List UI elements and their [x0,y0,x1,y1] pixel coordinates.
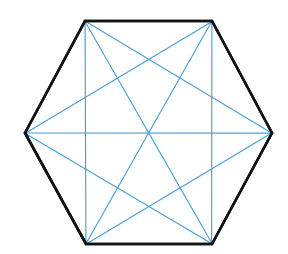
hexagon-side-ef [25,133,86,244]
diagonal-ac [85,21,272,133]
vertex-top-right [211,20,213,22]
vertex-top-left [84,20,86,22]
diagonal-bf [25,21,212,133]
diagonals-group [25,21,272,245]
diagonal-df [25,133,212,244]
vertex-left [24,132,26,134]
vertex-bottom-right [211,243,213,245]
hexagon-side-fa [25,21,85,133]
vertex-right [271,132,273,134]
vertex-bottom-left [85,243,87,245]
diagram-canvas [0,0,288,254]
hexagon-side-cd [212,133,272,244]
hexagon-diagram-svg [0,0,288,254]
hexagon-side-bc [212,21,272,133]
diagonal-ce [86,133,272,244]
